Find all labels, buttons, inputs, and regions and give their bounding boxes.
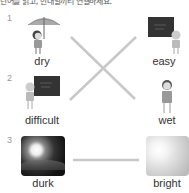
item-number-1: 1 <box>7 13 12 23</box>
bright-sun-photo <box>146 136 189 176</box>
girl-at-blackboard-icon-2 <box>20 73 64 115</box>
girl-at-blackboard-icon <box>146 13 186 55</box>
night-moon-photo <box>21 136 65 176</box>
word-easy: easy <box>139 55 189 67</box>
word-difficult: difficult <box>17 114 67 126</box>
item-number-2: 2 <box>7 73 12 83</box>
item-number-3: 3 <box>7 135 12 145</box>
boy-icon <box>155 78 179 116</box>
girl-with-umbrella-icon <box>26 13 62 55</box>
word-bright: bright <box>142 177 189 189</box>
word-durk: durk <box>18 177 68 189</box>
word-dry: dry <box>17 55 67 67</box>
word-wet: wet <box>142 114 189 126</box>
